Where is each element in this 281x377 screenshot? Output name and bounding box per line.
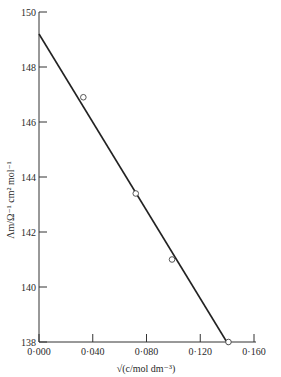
chart: 138140142144146148150 0·0000·0400·0800·1… [0,0,281,377]
x-tick-label: 0·080 [135,346,158,357]
x-tick-label: 0·040 [81,346,104,357]
data-point [226,339,232,345]
fit-line [39,34,228,345]
y-ticks: 138140142144146148150 [21,7,47,348]
x-tick-label: 0·120 [189,346,212,357]
y-axis-label: Λm/Ω⁻¹ cm² mol⁻¹ [5,161,16,239]
y-tick-label: 140 [21,282,36,293]
data-points [81,94,232,344]
y-tick-label: 148 [21,62,36,73]
data-point [133,191,139,197]
data-point [169,257,175,263]
x-tick-label: 0·160 [242,346,265,357]
y-tick-label: 142 [21,227,36,238]
y-tick-label: 146 [21,117,36,128]
x-ticks: 0·0000·0400·0800·1200·160 [27,334,265,357]
x-tick-label: 0·000 [27,346,50,357]
y-tick-label: 150 [21,7,36,18]
data-point [81,94,87,100]
y-tick-label: 144 [21,172,36,183]
x-axis-label: √(c/mol dm⁻³) [117,363,175,375]
